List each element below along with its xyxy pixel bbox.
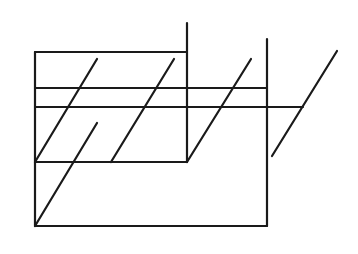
diagram-background [0,0,358,254]
diagram-svg [0,0,358,254]
line-diagram [0,0,358,254]
